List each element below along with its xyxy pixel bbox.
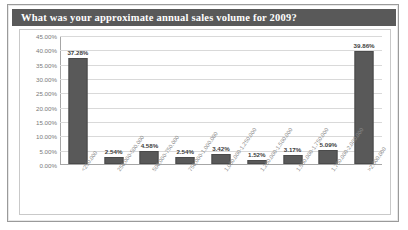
bar-value-label: 3.42% bbox=[212, 145, 230, 152]
y-axis-tick-label: 15.00% bbox=[36, 119, 57, 126]
x-label-slot: 250,000-500,000 bbox=[96, 167, 132, 215]
bar-value-label: 37.28% bbox=[67, 49, 88, 56]
y-axis-tick-label: 10.00% bbox=[36, 133, 57, 140]
x-label-slot: 750,000-1,000,000 bbox=[167, 167, 203, 215]
y-axis-tick-label: 35.00% bbox=[36, 61, 57, 68]
bar-value-label: 39.86% bbox=[354, 42, 375, 49]
x-label-slot: 1,250,000-1,500,000 bbox=[239, 167, 275, 215]
bar-value-label: 1.52% bbox=[248, 151, 266, 158]
bar-value-label: 2.54% bbox=[176, 148, 194, 155]
y-axis-tick-label: 5.00% bbox=[39, 147, 57, 154]
chart-plot-panel: 45.00%40.00%35.00%30.00%25.00%20.00%15.0… bbox=[19, 29, 391, 215]
y-axis-tick-labels: 45.00%40.00%35.00%30.00%25.00%20.00%15.0… bbox=[20, 36, 57, 165]
chart-frame: What was your approximate annual sales v… bbox=[7, 4, 399, 222]
y-axis-tick-label: 45.00% bbox=[36, 33, 57, 40]
x-label-slot: 500,000-750,000 bbox=[132, 167, 168, 215]
chart-axis-area: 37.28%2.54%4.58%2.54%3.42%1.52%3.17%5.09… bbox=[60, 36, 382, 165]
x-label-slot: <250,000 bbox=[60, 167, 96, 215]
y-axis-tick-label: 30.00% bbox=[36, 76, 57, 83]
x-label-slot: >2,000,000 bbox=[346, 167, 382, 215]
chart-bar[interactable] bbox=[68, 58, 87, 164]
bar-slot: 37.28% bbox=[60, 36, 96, 164]
y-axis-tick-label: 20.00% bbox=[36, 104, 57, 111]
x-label-slot: 1,000,000-1,250,000 bbox=[203, 167, 239, 215]
bar-value-label: 5.09% bbox=[320, 141, 338, 148]
page-title: What was your approximate annual sales v… bbox=[21, 10, 297, 25]
y-axis-tick-label: 0.00% bbox=[39, 162, 57, 169]
x-label-slot: 1,500,000-1,750,000 bbox=[275, 167, 311, 215]
chart-bar[interactable] bbox=[355, 51, 374, 164]
y-axis-tick-label: 25.00% bbox=[36, 90, 57, 97]
bar-slot: 2.54% bbox=[96, 36, 132, 164]
bar-value-label: 4.58% bbox=[141, 142, 159, 149]
x-label-slot: 1,750,000-2,000,000 bbox=[310, 167, 346, 215]
x-axis-category-labels: <250,000250,000-500,000500,000-750,00075… bbox=[60, 167, 382, 215]
bar-value-label: 2.54% bbox=[105, 148, 123, 155]
bar-value-label: 3.17% bbox=[284, 146, 302, 153]
chart-title-bar: What was your approximate annual sales v… bbox=[12, 9, 396, 26]
y-axis-tick-label: 40.00% bbox=[36, 47, 57, 54]
